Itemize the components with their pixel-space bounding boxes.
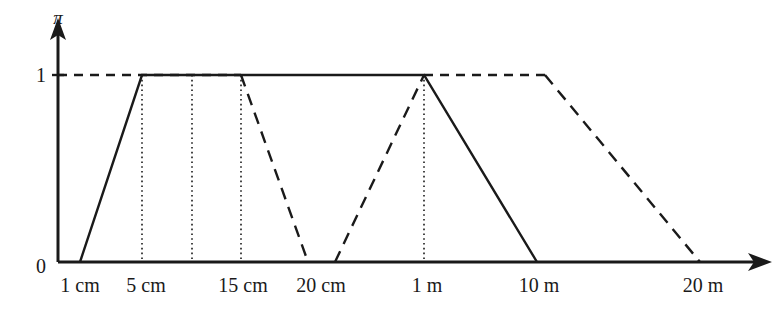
x-tick-label-5cm: 5 cm bbox=[126, 275, 165, 295]
x-tick-label-15cm: 15 cm bbox=[218, 275, 267, 295]
dashed-large-falling-edge bbox=[545, 75, 700, 262]
dashed-large-rising-edge bbox=[335, 75, 424, 262]
solid-trapezoid bbox=[80, 75, 537, 262]
guide-lines-group bbox=[142, 75, 424, 262]
series-solid-membership bbox=[80, 75, 537, 262]
series-dashed-membership-small bbox=[58, 75, 308, 262]
dashed-small-falling-edge bbox=[241, 75, 308, 262]
y-tick-label-1: 1 bbox=[36, 65, 46, 85]
x-tick-label-20m: 20 m bbox=[683, 275, 724, 295]
axes-group bbox=[50, 18, 772, 271]
membership-function-figure: π 1 0 1 cm 5 cm 15 cm 20 cm 1 m 10 m 20 … bbox=[0, 0, 782, 312]
x-tick-label-1m: 1 m bbox=[412, 275, 443, 295]
series-dashed-membership-large bbox=[335, 75, 700, 262]
x-tick-label-1cm: 1 cm bbox=[60, 275, 99, 295]
plot-canvas bbox=[0, 0, 782, 312]
y-axis-name: π bbox=[53, 8, 63, 27]
x-tick-label-10m: 10 m bbox=[519, 275, 560, 295]
y-tick-label-0: 0 bbox=[36, 256, 46, 276]
x-tick-label-20cm: 20 cm bbox=[296, 275, 345, 295]
